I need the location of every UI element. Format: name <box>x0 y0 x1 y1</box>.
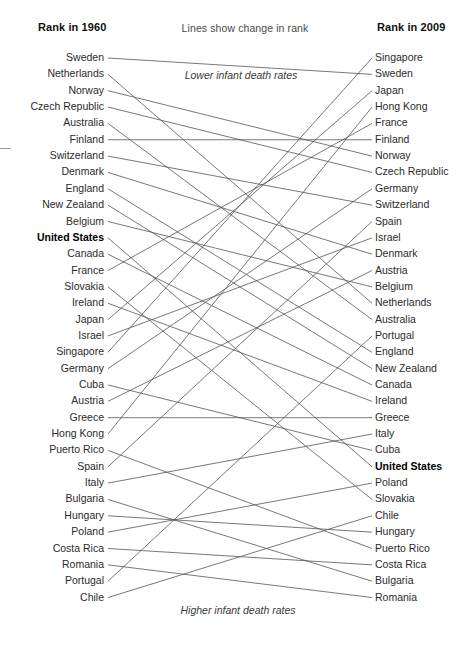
slope-line-australia <box>108 123 372 319</box>
slope-line-austria <box>108 271 372 402</box>
rank-label-1960-belgium: Belgium <box>66 216 104 227</box>
rank-label-1960-slovakia: Slovakia <box>64 281 104 292</box>
rank-label-2009-canada: Canada <box>375 379 412 390</box>
annotation-lower-rates: Lower infant death rates <box>0 69 476 81</box>
rank-label-2009-netherlands: Netherlands <box>375 297 432 308</box>
rank-label-1960-romania: Romania <box>62 559 104 570</box>
rank-label-2009-poland: Poland <box>375 477 408 488</box>
rank-label-2009-england: England <box>375 346 414 357</box>
rank-label-2009-puerto-rico: Puerto Rico <box>375 543 430 554</box>
slope-line-united-states <box>108 238 372 467</box>
rank-label-2009-denmark: Denmark <box>375 248 418 259</box>
rank-label-2009-slovakia: Slovakia <box>375 493 415 504</box>
rank-label-1960-cuba: Cuba <box>79 379 104 390</box>
rank-label-1960-puerto-rico: Puerto Rico <box>49 444 104 455</box>
rank-label-1960-united-states: United States <box>37 232 104 243</box>
rank-label-1960-hong-kong: Hong Kong <box>51 428 104 439</box>
slope-line-belgium <box>108 222 372 287</box>
rank-label-2009-bulgaria: Bulgaria <box>375 575 414 586</box>
rank-label-1960-new-zealand: New Zealand <box>42 199 104 210</box>
slope-line-hong-kong <box>108 107 372 434</box>
rank-label-1960-czech-republic: Czech Republic <box>30 101 104 112</box>
rank-label-1960-chile: Chile <box>80 592 104 603</box>
rank-label-2009-belgium: Belgium <box>375 281 413 292</box>
slope-line-canada <box>108 254 372 385</box>
rank-label-2009-romania: Romania <box>375 592 417 603</box>
rank-label-1960-germany: Germany <box>61 363 104 374</box>
rank-label-1960-sweden: Sweden <box>66 52 104 63</box>
rank-label-2009-norway: Norway <box>375 150 411 161</box>
slope-line-france <box>108 123 372 270</box>
slope-line-chile <box>108 516 372 598</box>
rank-label-1960-poland: Poland <box>71 526 104 537</box>
rank-label-2009-spain: Spain <box>375 216 402 227</box>
rank-label-2009-finland: Finland <box>375 134 409 145</box>
rank-label-1960-denmark: Denmark <box>61 166 104 177</box>
slope-line-spain <box>108 222 372 467</box>
rank-label-2009-czech-republic: Czech Republic <box>375 166 449 177</box>
slope-line-italy <box>108 434 372 483</box>
rank-label-2009-switzerland: Switzerland <box>375 199 429 210</box>
rank-label-2009-chile: Chile <box>375 510 399 521</box>
rank-label-1960-hungary: Hungary <box>64 510 104 521</box>
slope-line-poland <box>108 483 372 532</box>
slope-line-cuba <box>108 385 372 450</box>
left-edge-tick-mark <box>0 148 11 149</box>
rank-label-1960-greece: Greece <box>70 412 104 423</box>
slope-line-costa-rica <box>108 549 372 565</box>
rank-label-2009-new-zealand: New Zealand <box>375 363 437 374</box>
rank-label-1960-norway: Norway <box>68 85 104 96</box>
rank-label-1960-italy: Italy <box>85 477 104 488</box>
rank-label-2009-costa-rica: Costa Rica <box>375 559 426 570</box>
slope-line-ireland <box>108 303 372 401</box>
rank-label-1960-israel: Israel <box>78 330 104 341</box>
rank-label-1960-portugal: Portugal <box>65 575 104 586</box>
slope-line-puerto-rico <box>108 450 372 548</box>
rank-label-2009-germany: Germany <box>375 183 418 194</box>
rank-label-1960-costa-rica: Costa Rica <box>53 543 104 554</box>
slope-line-czech-republic <box>108 107 372 172</box>
slope-line-switzerland <box>108 156 372 205</box>
slope-line-bulgaria <box>108 499 372 581</box>
rank-label-1960-france: France <box>71 265 104 276</box>
rank-label-2009-united-states: United States <box>375 461 442 472</box>
slope-line-england <box>108 189 372 352</box>
rank-label-1960-ireland: Ireland <box>72 297 104 308</box>
slope-line-romania <box>108 565 372 598</box>
slope-line-hungary <box>108 516 372 532</box>
slope-line-portugal <box>108 336 372 581</box>
slope-line-singapore <box>108 58 372 352</box>
slope-line-denmark <box>108 172 372 254</box>
rank-label-1960-australia: Australia <box>63 117 104 128</box>
slope-line-israel <box>108 238 372 336</box>
slopegraph: Rank in 1960 Lines show change in rank R… <box>0 0 476 647</box>
rank-label-1960-switzerland: Switzerland <box>50 150 104 161</box>
rank-label-1960-england: England <box>65 183 104 194</box>
rank-label-1960-singapore: Singapore <box>56 346 104 357</box>
rank-label-1960-spain: Spain <box>77 461 104 472</box>
slope-line-netherlands <box>108 74 372 303</box>
rank-label-1960-finland: Finland <box>70 134 104 145</box>
rank-label-1960-austria: Austria <box>71 395 104 406</box>
rank-label-2009-singapore: Singapore <box>375 52 423 63</box>
rank-label-2009-austria: Austria <box>375 265 408 276</box>
annotation-higher-rates: Higher infant death rates <box>0 604 476 616</box>
right-axis-title: Rank in 2009 <box>377 21 445 33</box>
rank-label-2009-france: France <box>375 117 408 128</box>
rank-label-2009-hungary: Hungary <box>375 526 415 537</box>
rank-label-2009-israel: Israel <box>375 232 401 243</box>
slope-line-germany <box>108 189 372 369</box>
rank-label-2009-cuba: Cuba <box>375 444 400 455</box>
rank-label-2009-portugal: Portugal <box>375 330 414 341</box>
rank-label-2009-greece: Greece <box>375 412 409 423</box>
rank-label-1960-japan: Japan <box>75 314 104 325</box>
rank-label-1960-canada: Canada <box>67 248 104 259</box>
rank-label-2009-australia: Australia <box>375 314 416 325</box>
slope-line-norway <box>108 91 372 156</box>
slope-line-new-zealand <box>108 205 372 369</box>
slope-line-slovakia <box>108 287 372 500</box>
rank-label-2009-hong-kong: Hong Kong <box>375 101 428 112</box>
rank-label-2009-italy: Italy <box>375 428 394 439</box>
rank-label-2009-ireland: Ireland <box>375 395 407 406</box>
rank-label-2009-japan: Japan <box>375 85 404 96</box>
